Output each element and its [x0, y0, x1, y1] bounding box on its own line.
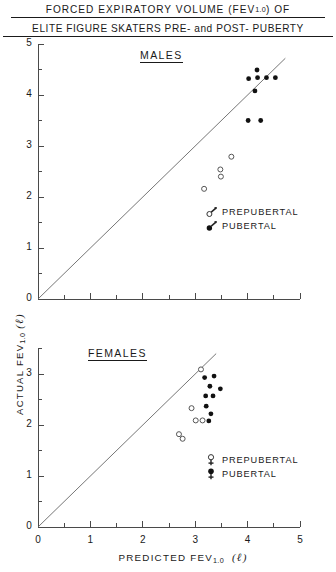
data-point-pubertal [212, 374, 217, 379]
x-tick-label: 1 [83, 534, 97, 545]
y-tick-label: 1 [16, 469, 32, 480]
y-tick-label: 2 [16, 190, 32, 201]
legend-item-males-prepubertal: PREPUBERTAL [205, 205, 298, 219]
x-tick-label: 2 [136, 534, 150, 545]
x-tick-label: 4 [241, 534, 255, 545]
legend-item-females-pubertal: PUBERTAL [205, 467, 298, 481]
data-point-prepubertal [229, 154, 234, 159]
legend-item-females-prepubertal: PREPUBERTAL [205, 453, 298, 467]
data-point-pubertal [255, 68, 260, 73]
data-point-prepubertal [180, 436, 185, 441]
data-point-prepubertal [189, 406, 194, 411]
y-tick-label: 1 [16, 241, 32, 252]
x-tick-label: 5 [293, 534, 307, 545]
data-point-prepubertal [218, 174, 223, 179]
legend-item-males-pubertal: PUBERTAL [205, 219, 298, 233]
data-point-pubertal [246, 118, 251, 123]
male-open-symbol-icon [205, 205, 221, 219]
legend-label-females-pubertal: PUBERTAL [222, 469, 277, 479]
data-point-pubertal [255, 75, 260, 80]
panel-females-label: FEMALES [88, 347, 147, 361]
panel-females: FEMALES PREPUBERTAL [0, 320, 336, 572]
data-point-prepubertal [198, 367, 203, 372]
figure-root: FORCED EXPIRATORY VOLUME (FEV1.0) OF ELI… [0, 0, 336, 572]
legend-label-males-pubertal: PUBERTAL [222, 221, 277, 231]
female-open-symbol-icon [205, 453, 221, 467]
legend-females: PREPUBERTAL PUBERTAL [205, 453, 298, 481]
legend-label-males-prepubertal: PREPUBERTAL [222, 207, 298, 217]
panel-males-label: MALES [140, 49, 183, 63]
data-point-pubertal [203, 394, 208, 399]
legend-label-females-prepubertal: PREPUBERTAL [222, 455, 298, 465]
y-tick-label: 0 [16, 292, 32, 303]
data-point-pubertal [258, 118, 263, 123]
data-point-pubertal [264, 75, 269, 80]
data-point-pubertal [206, 419, 211, 424]
y-tick-label: 3 [16, 367, 32, 378]
male-filled-symbol-icon [205, 219, 221, 233]
data-point-pubertal [246, 76, 251, 81]
y-tick-label: 3 [16, 139, 32, 150]
plot-area-males [0, 0, 336, 310]
data-point-pubertal [209, 411, 214, 416]
data-point-pubertal [253, 89, 258, 94]
legend-males: PREPUBERTAL PUBERTAL [205, 205, 298, 233]
data-point-prepubertal [176, 432, 181, 437]
data-point-pubertal [218, 386, 223, 391]
x-tick-label: 3 [188, 534, 202, 545]
data-point-prepubertal [200, 418, 205, 423]
female-filled-symbol-icon [205, 467, 221, 481]
x-tick-label: 0 [31, 534, 45, 545]
data-point-prepubertal [202, 186, 207, 191]
plot-area-females [0, 320, 336, 550]
panel-males: MALES PREPUBERTAL [0, 0, 336, 310]
data-point-pubertal [202, 375, 207, 380]
y-tick-label: 5 [16, 37, 32, 48]
data-point-pubertal [273, 75, 278, 80]
data-point-pubertal [204, 404, 209, 409]
data-point-pubertal [207, 384, 212, 389]
y-tick-label: 2 [16, 418, 32, 429]
data-point-prepubertal [193, 418, 198, 423]
data-point-prepubertal [218, 167, 223, 172]
y-tick-label: 4 [16, 88, 32, 99]
y-tick-label: 0 [16, 520, 32, 531]
data-point-pubertal [211, 394, 216, 399]
